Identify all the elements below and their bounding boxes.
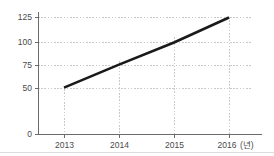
y-tick-labels: 125 100 75 50 0 <box>18 12 32 139</box>
y-tick-marks <box>35 18 39 135</box>
x-axis-unit-label: (년) <box>240 140 254 150</box>
y-tick-label-100: 100 <box>18 37 32 47</box>
x-tick-marks <box>65 135 230 139</box>
y-tick-label-0: 0 <box>27 129 32 139</box>
vertical-gridlines <box>65 17 230 134</box>
line-chart: 125 100 75 50 0 2013 2014 2015 2016 (년) <box>0 0 274 156</box>
x-tick-label-2016: 2016 <box>218 140 237 150</box>
y-tick-label-50: 50 <box>23 83 33 93</box>
series-line-path <box>64 18 229 88</box>
y-tick-label-125: 125 <box>18 12 32 22</box>
x-tick-labels: 2013 2014 2015 2016 (년) <box>55 140 254 150</box>
y-tick-label-75: 75 <box>23 60 33 70</box>
x-tick-label-2014: 2014 <box>110 140 129 150</box>
x-tick-label-2013: 2013 <box>55 140 74 150</box>
x-tick-label-2015: 2015 <box>165 140 184 150</box>
chart-canvas: 125 100 75 50 0 2013 2014 2015 2016 (년) <box>0 0 274 156</box>
